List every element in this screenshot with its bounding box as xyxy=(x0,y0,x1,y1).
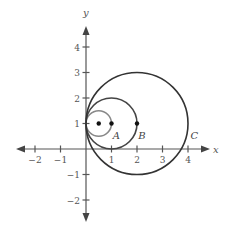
label-a: A xyxy=(112,130,120,141)
y-tick-label: −2 xyxy=(67,196,80,206)
label-c: C xyxy=(191,130,199,141)
x-tick-label: 2 xyxy=(134,155,140,165)
center-point xyxy=(109,121,113,125)
y-tick-label: 3 xyxy=(74,68,80,78)
x-axis-left-arrow-icon xyxy=(16,146,25,153)
y-axis-bottom-arrow-icon xyxy=(83,213,90,222)
center-point xyxy=(97,121,101,125)
y-tick-label: 2 xyxy=(74,94,80,104)
y-tick-label: 1 xyxy=(74,119,80,129)
y-axis-label: y xyxy=(82,7,89,18)
x-tick-label: 3 xyxy=(160,155,166,165)
x-tick-label: −1 xyxy=(54,155,67,165)
coordinate-diagram: −2−112344321−1−2 ABC x y xyxy=(0,0,234,233)
x-tick-label: 4 xyxy=(185,155,191,165)
x-axis-label: x xyxy=(213,144,219,155)
x-tick-label: 1 xyxy=(109,155,115,165)
y-tick-label: 4 xyxy=(74,43,80,53)
label-b: B xyxy=(137,130,145,141)
y-tick-label: −1 xyxy=(67,170,80,180)
center-points xyxy=(97,121,140,125)
center-point xyxy=(135,121,139,125)
y-axis-top-arrow-icon xyxy=(83,26,90,35)
x-tick-label: −2 xyxy=(28,155,41,165)
x-axis-right-arrow-icon xyxy=(201,146,210,153)
